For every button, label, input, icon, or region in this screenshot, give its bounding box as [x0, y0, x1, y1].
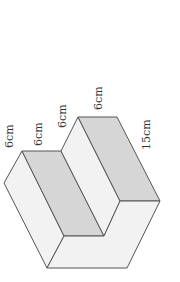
dimension-label-3: 6cm — [56, 104, 69, 128]
dimension-label-2: 6cm — [32, 122, 45, 146]
dimension-label-1: 6cm — [3, 124, 16, 148]
dimension-label-5: 15cm — [140, 119, 153, 150]
stepped-prism-figure: 6cm 6cm 6cm 6cm 15cm — [0, 0, 180, 282]
dimension-label-4: 6cm — [92, 86, 105, 110]
